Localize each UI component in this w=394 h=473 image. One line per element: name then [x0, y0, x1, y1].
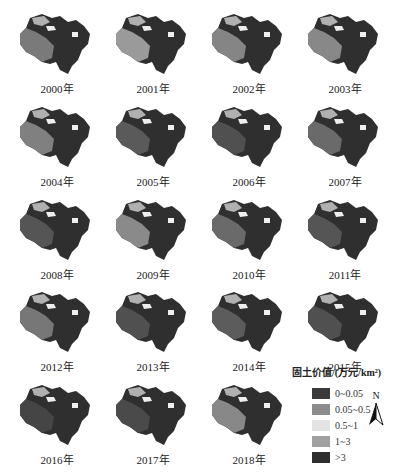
year-label: 2002年: [204, 80, 294, 96]
year-label: 2010年: [204, 266, 294, 282]
map-panel: 2012年: [12, 282, 102, 372]
legend-title: 固土价值/(万元/km²): [292, 364, 394, 379]
north-arrow-icon: [366, 401, 386, 429]
year-label: 2016年: [12, 451, 102, 467]
legend-swatch: [312, 452, 330, 463]
map-panel: 2017年: [108, 375, 198, 465]
year-label: 2001年: [108, 80, 198, 96]
legend-swatch: [312, 420, 330, 431]
year-label: 2017年: [108, 451, 198, 467]
region-map: [108, 375, 198, 451]
region-map: [12, 375, 102, 451]
map-panel: 2003年: [300, 4, 390, 94]
year-label: 2011年: [300, 266, 390, 282]
year-label: 2005年: [108, 173, 198, 189]
legend-swatch: [312, 388, 330, 399]
legend-item: 1~3: [312, 433, 394, 449]
north-label: N: [366, 390, 386, 401]
year-label: 2000年: [12, 80, 102, 96]
region-map: [204, 97, 294, 173]
year-label: 2013年: [108, 358, 198, 374]
legend-label: 0~0.05: [335, 388, 363, 399]
map-panel: 2002年: [204, 4, 294, 94]
region-map: [108, 190, 198, 266]
region-map: [204, 4, 294, 80]
year-label: 2008年: [12, 266, 102, 282]
region-map: [12, 282, 102, 358]
legend-item: >3: [312, 449, 394, 465]
year-label: 2003年: [300, 80, 390, 96]
region-map: [300, 282, 390, 358]
map-panel: 2007年: [300, 97, 390, 187]
map-panel: 2009年: [108, 190, 198, 280]
year-label: 2014年: [204, 358, 294, 374]
legend-swatch: [312, 404, 330, 415]
map-panel: 2005年: [108, 97, 198, 187]
region-map: [300, 97, 390, 173]
year-label: 2009年: [108, 266, 198, 282]
map-panel: 2006年: [204, 97, 294, 187]
legend-swatch: [312, 436, 330, 447]
map-panel: 2000年: [12, 4, 102, 94]
year-label: 2006年: [204, 173, 294, 189]
map-panel: 2013年: [108, 282, 198, 372]
region-map: [12, 190, 102, 266]
legend-label: >3: [335, 452, 346, 463]
year-label: 2018年: [204, 451, 294, 467]
region-map: [204, 282, 294, 358]
map-panel: 2011年: [300, 190, 390, 280]
region-map: [108, 4, 198, 80]
legend-label: 0.5~1: [335, 420, 358, 431]
map-panel: 2015年: [300, 282, 390, 372]
year-label: 2012年: [12, 358, 102, 374]
map-panel: 2004年: [12, 97, 102, 187]
map-panel: 2018年: [204, 375, 294, 465]
legend-label: 1~3: [335, 436, 350, 447]
region-map: [12, 97, 102, 173]
map-panel: 2014年: [204, 282, 294, 372]
region-map: [204, 190, 294, 266]
region-map: [108, 97, 198, 173]
region-map: [108, 282, 198, 358]
region-map: [300, 4, 390, 80]
year-label: 2004年: [12, 173, 102, 189]
map-panel: 2001年: [108, 4, 198, 94]
map-panel: 2008年: [12, 190, 102, 280]
region-map: [204, 375, 294, 451]
region-map: [300, 190, 390, 266]
map-panel: 2016年: [12, 375, 102, 465]
year-label: 2007年: [300, 173, 390, 189]
map-panel: 2010年: [204, 190, 294, 280]
north-arrow: N: [366, 390, 386, 430]
region-map: [12, 4, 102, 80]
